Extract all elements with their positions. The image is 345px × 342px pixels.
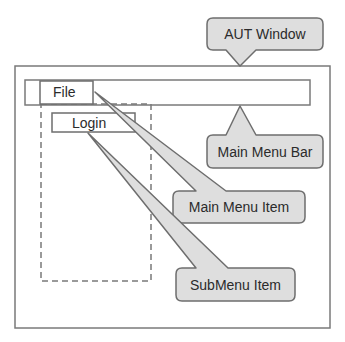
file-menu-item-text: File: [53, 85, 76, 99]
main-menu-bar-label: Main Menu Bar: [207, 145, 323, 159]
login-submenu-item-text: Login: [72, 116, 106, 130]
main-menu-item-label: Main Menu Item: [173, 200, 305, 214]
submenu-item-label: SubMenu Item: [176, 278, 295, 292]
aut-window-label: AUT Window: [207, 27, 323, 41]
